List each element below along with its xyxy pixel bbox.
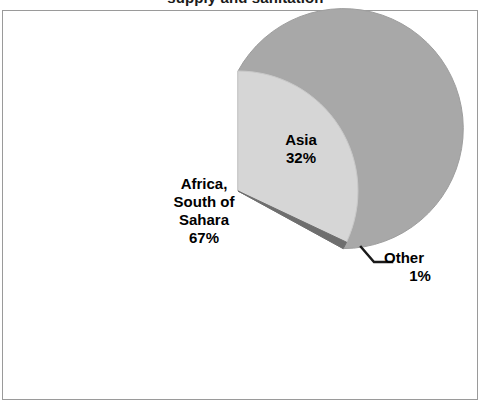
pie-label-asia-name: Asia: [285, 131, 317, 148]
pie-label-other-name: Other: [384, 249, 424, 266]
pie-label-africa-line2: South of: [174, 193, 235, 210]
pie-label-africa-line3: Sahara: [179, 211, 229, 228]
pie-label-asia: Asia 32%: [262, 131, 340, 167]
pie-label-asia-percent: 32%: [262, 149, 340, 167]
pie-label-africa-line1: Africa,: [181, 175, 228, 192]
pie-label-africa: Africa, South of Sahara 67%: [152, 175, 256, 247]
pie-label-other-percent: 1%: [384, 267, 470, 285]
pie-label-other: Other 1%: [384, 249, 470, 285]
pie-label-africa-percent: 67%: [152, 229, 256, 247]
